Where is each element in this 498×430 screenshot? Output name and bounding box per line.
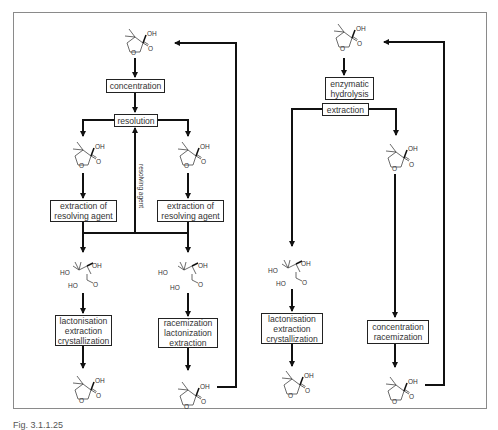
svg-text:O: O: [288, 392, 293, 399]
svg-text:OH: OH: [304, 372, 314, 379]
svg-text:O: O: [201, 158, 206, 165]
svg-text:O: O: [409, 161, 414, 168]
step-resolution: resolution: [114, 114, 158, 127]
svg-text:OH: OH: [408, 378, 418, 385]
step-extraction-resolving-agent-left: extraction of resolving agent: [50, 200, 117, 222]
step-lactonisation-left: lactonisation extraction crystallization: [55, 315, 112, 346]
lactone-mid-left: OH O O: [73, 142, 105, 169]
svg-text:HO: HO: [68, 282, 78, 289]
svg-text:O: O: [340, 45, 345, 52]
step-extraction-resolving-agent-right: extraction of resolving agent: [157, 200, 224, 222]
svg-text:O: O: [184, 162, 189, 169]
svg-text:OH: OH: [147, 30, 157, 37]
step-extraction: extraction: [322, 103, 369, 116]
step-concentration-racemization: concentration racemization: [367, 320, 429, 344]
lactone-mid-right-route: OH O O: [386, 144, 418, 172]
lactone-bottom-right-route2: OH O O: [386, 377, 418, 405]
svg-text:O: O: [201, 398, 206, 405]
svg-text:OH: OH: [408, 145, 418, 152]
svg-text:OH: OH: [356, 25, 366, 32]
svg-text:HO: HO: [276, 280, 286, 287]
svg-text:O: O: [96, 392, 101, 399]
diol-right-route: HO OH HO O: [268, 260, 311, 287]
svg-text:O: O: [357, 40, 362, 47]
svg-text:O: O: [131, 49, 136, 56]
step-lactonisation-right: lactonisation extraction crystallization: [261, 313, 323, 344]
svg-text:O: O: [79, 162, 84, 169]
svg-text:HO: HO: [170, 284, 180, 291]
svg-text:OH: OH: [95, 143, 105, 150]
svg-text:O: O: [79, 397, 84, 404]
svg-text:HO: HO: [158, 269, 168, 276]
svg-text:OH: OH: [92, 262, 102, 269]
figure-caption: Fig. 3.1.1.25: [13, 420, 63, 430]
svg-text:HO: HO: [268, 267, 278, 274]
lactone-mid-right: OH O O: [178, 142, 210, 169]
diol-left: HO OH HO O: [60, 262, 102, 289]
lactone-top-right: OH O O: [334, 24, 366, 52]
svg-text:O: O: [148, 45, 153, 52]
lactone-bottom-right: OH O O: [178, 382, 210, 410]
svg-text:O: O: [93, 281, 98, 288]
svg-text:O: O: [302, 279, 307, 286]
lactone-bottom-left: OH O O: [73, 376, 105, 404]
svg-text:O: O: [305, 387, 310, 394]
step-enzymatic-hydrolysis: enzymatic hydrolysis: [325, 77, 374, 100]
svg-text:O: O: [198, 281, 203, 288]
resolving-agent-label: resolving agent: [138, 164, 145, 208]
lactone-bottom-left-route2: OH O O: [282, 371, 314, 399]
svg-text:OH: OH: [95, 377, 105, 384]
svg-text:OH: OH: [198, 262, 208, 269]
svg-text:OH: OH: [301, 260, 311, 267]
step-concentration: concentration: [106, 79, 165, 93]
svg-text:O: O: [392, 398, 397, 405]
svg-text:OH: OH: [200, 143, 210, 150]
svg-text:O: O: [392, 165, 397, 172]
svg-text:O: O: [96, 158, 101, 165]
svg-text:HO: HO: [60, 269, 70, 276]
svg-text:OH: OH: [200, 383, 210, 390]
svg-text:O: O: [184, 403, 189, 410]
diol-right: HO OH HO O: [158, 262, 208, 291]
lactone-top-left: OH O O: [125, 29, 157, 56]
step-racemization-left: racemization lactonization extraction: [158, 318, 218, 348]
svg-text:O: O: [409, 393, 414, 400]
